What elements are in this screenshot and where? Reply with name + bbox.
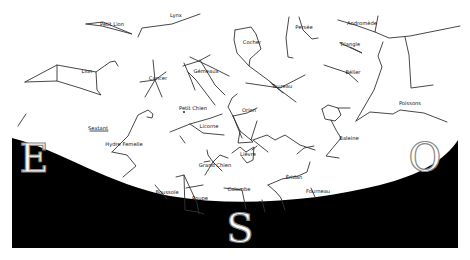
cardinal-east: E: [19, 138, 48, 178]
label-lion: Lion: [82, 69, 93, 74]
label-eridan: Éridan: [286, 175, 303, 180]
label-hydre-femelle: Hydre Femelle: [105, 142, 142, 147]
label-taureau: Taureau: [272, 84, 292, 89]
label-baleine: Baleine: [339, 136, 358, 141]
label-cancer: Cancer: [149, 76, 167, 81]
label-licorne: Licorne: [200, 124, 219, 129]
label-orion: Orion: [242, 108, 256, 113]
label-sextant: Sextant: [88, 126, 108, 131]
label-petit-chien: Petit Chien: [179, 106, 207, 111]
label-poissons: Poissons: [399, 101, 421, 106]
label-cocher: Cocher: [243, 40, 261, 45]
label-persee: Persée: [295, 25, 312, 30]
label-petit-lion: Petit Lion: [100, 22, 124, 27]
label-burin: Burin: [258, 201, 272, 206]
cardinal-south: S: [226, 208, 253, 248]
label-lievre: Lièvre: [240, 152, 256, 157]
cardinal-west: O: [409, 137, 442, 177]
label-fourneau: Fourneau: [306, 189, 330, 194]
label-belier: Bélier: [346, 70, 361, 75]
label-gemeaux: Gémeaux: [194, 69, 219, 74]
label-poupe: Poupe: [192, 196, 208, 201]
label-boussole: Boussole: [155, 190, 178, 195]
label-lynx: Lynx: [170, 13, 182, 18]
label-colombe: Colombe: [228, 187, 251, 192]
label-triangle: Triangle: [340, 42, 360, 47]
label-grand-chien: Grand Chien: [199, 163, 231, 168]
label-andromede: Andromède: [347, 21, 377, 26]
